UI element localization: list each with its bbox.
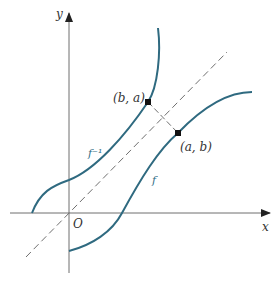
y-axis-label: y	[56, 8, 63, 20]
point-b-a	[145, 99, 151, 105]
point-a-b-label: (a, b)	[180, 141, 212, 153]
diagram-graphic	[0, 0, 277, 281]
f-inverse-label: f⁻¹	[88, 148, 102, 159]
point-a-b	[175, 130, 181, 136]
f-inverse-curve	[32, 28, 159, 213]
x-axis-label: x	[262, 221, 269, 233]
point-b-a-label: (b, a)	[113, 92, 145, 104]
origin-label: O	[73, 218, 83, 230]
line-y-equals-x	[26, 52, 227, 257]
f-curve	[69, 92, 252, 251]
inverse-function-diagram: y x O (b, a) (a, b) f⁻¹ f	[0, 0, 277, 281]
f-label: f	[152, 175, 156, 186]
